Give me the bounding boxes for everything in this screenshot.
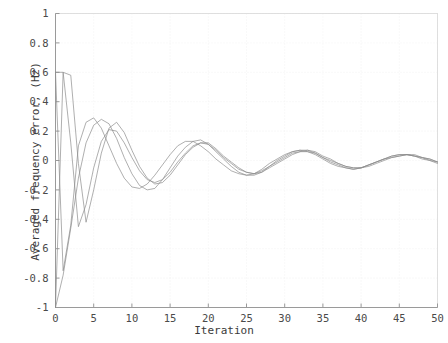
x-tick-label: 0 [52, 312, 58, 324]
x-tick-label: 15 [164, 312, 177, 324]
chart-figure: -1-0.8-0.6-0.4-0.200.20.40.60.8105101520… [0, 0, 448, 343]
x-tick-label: 40 [355, 312, 368, 324]
x-tick-label: 45 [393, 312, 406, 324]
x-tick-label: 20 [202, 312, 215, 324]
series-line [56, 119, 438, 307]
y-tick-label: -1 [36, 301, 49, 313]
x-tick-label: 35 [317, 312, 330, 324]
plot-canvas: -1-0.8-0.6-0.4-0.200.20.40.60.8105101520… [0, 0, 448, 343]
x-tick-label: 30 [278, 312, 291, 324]
x-tick-label: 10 [126, 312, 139, 324]
y-tick-label: 0 [42, 154, 48, 166]
y-axis-title: Averaged frequency error, (Hz) [29, 32, 42, 292]
y-tick-label: 1 [42, 7, 48, 19]
x-axis-title: Iteration [0, 324, 448, 337]
x-tick-label: 25 [240, 312, 253, 324]
x-tick-label: 5 [91, 312, 97, 324]
x-tick-label: 50 [431, 312, 444, 324]
